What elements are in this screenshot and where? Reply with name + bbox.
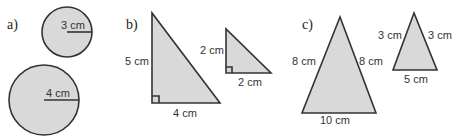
small-isosceles-left-label: 3 cm [378, 29, 402, 41]
part-b-label: b) [126, 17, 138, 33]
part-a-label: a) [7, 17, 18, 33]
small-isosceles-right-label: 3 cm [428, 29, 452, 41]
part-c-label: c) [302, 17, 313, 33]
large-right-triangle-base-label: 4 cm [173, 107, 197, 119]
small-circle: 3 cm [42, 7, 92, 57]
large-isosceles-left-label: 8 cm [292, 55, 316, 67]
small-right-triangle: 2 cm 2 cm [200, 29, 271, 88]
large-circle-radius-label: 4 cm [46, 87, 70, 99]
large-circle: 4 cm [9, 65, 79, 135]
large-right-triangle-height-label: 5 cm [125, 55, 149, 67]
large-isosceles-triangle: 8 cm 8 cm 10 cm [292, 17, 383, 126]
small-right-triangle-base-label: 2 cm [238, 76, 262, 88]
small-isosceles-base-label: 5 cm [404, 73, 428, 85]
small-right-triangle-height-label: 2 cm [200, 44, 224, 56]
small-circle-radius-label: 3 cm [61, 19, 85, 31]
large-right-triangle: 5 cm 4 cm [125, 13, 220, 119]
shapes-figure: a) 3 cm 4 cm b) 5 cm 4 cm 2 cm 2 cm c) 8… [0, 0, 461, 140]
small-isosceles-triangle: 3 cm 3 cm 5 cm [378, 13, 452, 85]
large-isosceles-base-label: 10 cm [320, 114, 350, 126]
large-isosceles-right-label: 8 cm [359, 55, 383, 67]
